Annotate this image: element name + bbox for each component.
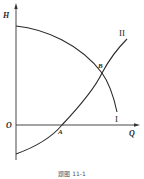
x-axis-arrow-icon xyxy=(134,123,140,126)
y-axis-label: H xyxy=(2,11,10,20)
diagram: H O Q A B II I 题图 11-1 xyxy=(0,0,144,179)
curve-I-label: I xyxy=(115,114,118,124)
curve-II-label: II xyxy=(119,28,125,38)
origin-label: O xyxy=(6,121,12,130)
curve-II xyxy=(16,39,127,154)
x-axis-label: Q xyxy=(129,129,135,138)
point-A-label: A xyxy=(57,128,63,136)
figure-caption: 题图 11-1 xyxy=(58,170,86,178)
point-B-label: B xyxy=(97,62,103,70)
y-axis-arrow-icon xyxy=(14,3,17,9)
